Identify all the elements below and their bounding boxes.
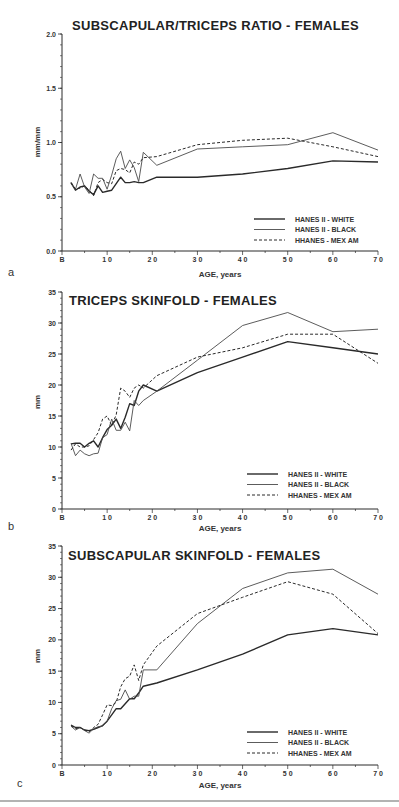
x-tick-label: 4 0 <box>238 514 248 521</box>
y-axis-label: mm/mm <box>33 127 42 158</box>
chart-panel-a: SUBSCAPULAR/TRICEPS RATIO - FEMALES 0.00… <box>8 18 383 279</box>
x-tick-label: 3 0 <box>193 514 203 521</box>
x-axis-label: AGE, years <box>199 270 242 279</box>
legend-label: HHANES - MEX AM <box>288 492 352 499</box>
chart-title: SUBSCAPULAR/TRICEPS RATIO - FEMALES <box>72 18 359 33</box>
plot-area <box>71 569 378 733</box>
x-tick-label: 4 0 <box>238 770 248 777</box>
x-tick-label: 5 0 <box>283 514 293 521</box>
x-tick-label: 6 0 <box>328 770 338 777</box>
y-tick-label: 1.0 <box>46 139 56 146</box>
x-axis-label: AGE, years <box>199 524 242 533</box>
legend: HANES II - WHITEHANES II - BLACKHHANES -… <box>247 471 352 499</box>
y-tick-label: 15 <box>48 413 56 420</box>
x-tick-label: 7 0 <box>373 256 383 263</box>
x-axis-label: AGE, years <box>199 781 242 790</box>
x-tick-label: 1 0 <box>102 770 112 777</box>
y-tick-label: 1.5 <box>46 85 56 92</box>
series-line <box>71 138 378 196</box>
y-tick-label: 2.0 <box>46 31 56 38</box>
panel-label: c <box>17 777 23 789</box>
chart-panel-b: TRICEPS SKINFOLD - FEMALES 0510152025303… <box>8 289 383 534</box>
y-axis-label: mm <box>33 395 42 409</box>
x-tick-label: 4 0 <box>238 256 248 263</box>
y-tick-label: 20 <box>48 382 56 389</box>
x-tick-label: 3 0 <box>193 770 203 777</box>
y-tick-label: 35 <box>48 289 56 296</box>
legend-label: HANES II - BLACK <box>295 226 356 233</box>
x-tick-label: B <box>59 256 64 263</box>
x-tick-label: B <box>59 514 64 521</box>
x-tick-label: 2 0 <box>147 514 157 521</box>
series-line <box>71 334 378 450</box>
series-line <box>71 342 378 447</box>
x-tick-label: 1 0 <box>102 256 112 263</box>
y-tick-label: 10 <box>48 699 56 706</box>
legend-label: HANES II - BLACK <box>288 739 349 746</box>
plot-area <box>71 133 378 196</box>
x-tick-label: B <box>59 770 64 777</box>
x-tick-label: 7 0 <box>373 770 383 777</box>
x-tick-label: 2 0 <box>147 256 157 263</box>
y-tick-label: 30 <box>48 574 56 581</box>
legend-label: HANES II - BLACK <box>288 481 349 488</box>
legend-label: HANES II - WHITE <box>295 216 354 223</box>
series-line <box>71 161 378 195</box>
y-tick-label: 15 <box>48 668 56 675</box>
y-tick-label: 0.5 <box>46 193 56 200</box>
y-tick-label: 30 <box>48 320 56 327</box>
y-tick-label: 25 <box>48 605 56 612</box>
y-tick-label: 5 <box>52 730 56 737</box>
x-tick-label: 7 0 <box>373 514 383 521</box>
plot-area <box>71 313 378 456</box>
panel-label: a <box>8 266 15 278</box>
legend-label: HANES II - WHITE <box>288 471 347 478</box>
figure-canvas: SUBSCAPULAR/TRICEPS RATIO - FEMALES 0.00… <box>0 0 399 807</box>
x-tick-label: 6 0 <box>328 514 338 521</box>
legend-label: HHANES - MEX AM <box>295 237 359 244</box>
chart-title: TRICEPS SKINFOLD - FEMALES <box>69 293 277 308</box>
x-tick-label: 2 0 <box>147 770 157 777</box>
y-tick-label: 0.0 <box>46 248 56 255</box>
legend-label: HHANES - MEX AM <box>288 750 352 757</box>
legend: HANES II - WHITEHANES II - BLACKHHANES -… <box>254 216 359 244</box>
y-tick-label: 20 <box>48 636 56 643</box>
x-tick-label: 5 0 <box>283 256 293 263</box>
y-tick-label: 5 <box>52 475 56 482</box>
x-tick-label: 6 0 <box>328 256 338 263</box>
y-axis-label: mm <box>33 649 42 663</box>
x-tick-label: 1 0 <box>102 514 112 521</box>
y-tick-label: 10 <box>48 444 56 451</box>
y-tick-label: 0 <box>52 762 56 769</box>
panel-label: b <box>8 520 14 532</box>
y-tick-label: 0 <box>52 506 56 513</box>
x-tick-label: 5 0 <box>283 770 293 777</box>
y-tick-label: 35 <box>48 543 56 550</box>
y-tick-label: 25 <box>48 351 56 358</box>
legend: HANES II - WHITEHANES II - BLACKHHANES -… <box>247 729 352 757</box>
legend-label: HANES II - WHITE <box>288 729 347 736</box>
x-tick-label: 3 0 <box>193 256 203 263</box>
chart-panel-c: SUBSCAPULAR SKINFOLD - FEMALES 051015202… <box>17 543 383 791</box>
series-line <box>71 629 378 731</box>
chart-title: SUBSCAPULAR SKINFOLD - FEMALES <box>68 548 320 563</box>
